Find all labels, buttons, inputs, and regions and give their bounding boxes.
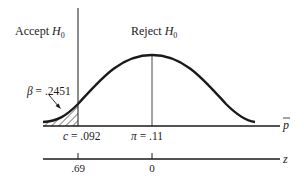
reject-region-label: Reject H0: [131, 24, 177, 40]
hypothesis-test-diagram: Accept H0 Reject H0 β = .2451 c = .092 π…: [0, 0, 304, 181]
z-tick-label-0: 0: [149, 162, 155, 174]
p-axis-label: p: [282, 118, 289, 132]
z-axis-label: z: [282, 152, 288, 166]
accept-region-label: Accept H0: [15, 24, 65, 40]
true-mean-label: π = .11: [131, 130, 163, 142]
critical-value-label: c = .092: [63, 130, 101, 142]
beta-shaded-region: [43, 104, 78, 126]
z-tick-label-069: .69: [71, 162, 85, 174]
beta-label: β = .2451: [26, 85, 71, 98]
